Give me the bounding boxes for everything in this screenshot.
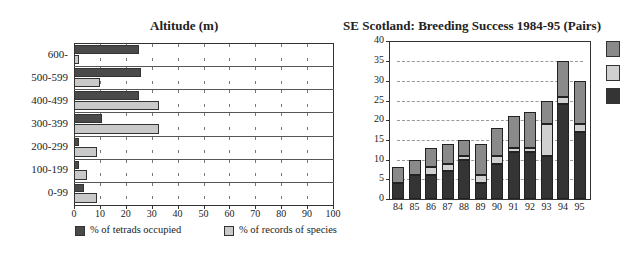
altitude-category-label: 0-99 bbox=[6, 186, 68, 198]
grid-tick bbox=[307, 44, 308, 47]
bar-records-of-species bbox=[74, 101, 159, 111]
grid-tick bbox=[178, 160, 179, 163]
bar-segment-top bbox=[475, 144, 487, 176]
grid-tick bbox=[204, 127, 205, 130]
bar-tetrads-occupied bbox=[74, 184, 84, 193]
altitude-category-label: 100-199 bbox=[6, 163, 68, 175]
grid-tick bbox=[281, 113, 282, 116]
grid-tick bbox=[307, 67, 308, 70]
grid-tick bbox=[229, 150, 230, 153]
bar-segment-middle bbox=[491, 156, 503, 164]
grid-tick bbox=[229, 113, 230, 116]
grid-tick bbox=[307, 90, 308, 93]
grid-tick bbox=[204, 67, 205, 70]
grid-tick bbox=[255, 160, 256, 163]
y-axis-tick-label: 10 bbox=[352, 153, 384, 164]
grid-tick bbox=[255, 196, 256, 199]
grid-tick bbox=[100, 150, 101, 153]
grid-tick bbox=[204, 113, 205, 116]
y-axis-tick bbox=[386, 179, 389, 180]
grid-tick bbox=[281, 44, 282, 47]
bar-segment-top bbox=[541, 101, 553, 125]
grid-tick bbox=[152, 44, 153, 47]
grid-tick bbox=[281, 150, 282, 153]
grid-tick bbox=[178, 127, 179, 130]
grid-tick bbox=[229, 183, 230, 186]
y-axis-tick bbox=[386, 101, 389, 102]
bar-segment-top bbox=[409, 160, 421, 176]
grid-tick bbox=[229, 58, 230, 61]
y-axis-tick-label: 25 bbox=[352, 94, 384, 105]
bar-segment-top bbox=[491, 128, 503, 156]
grid-tick bbox=[204, 183, 205, 186]
bar-segment-top bbox=[508, 116, 520, 148]
grid-tick bbox=[178, 113, 179, 116]
grid-tick bbox=[255, 127, 256, 130]
bar-segment-top bbox=[458, 140, 470, 156]
gridline bbox=[397, 140, 583, 141]
bar-segment-top bbox=[524, 112, 536, 147]
y-axis-tick-label: 20 bbox=[352, 113, 384, 124]
bar-segment-bottom bbox=[557, 104, 569, 199]
bar-segment-middle bbox=[524, 148, 536, 152]
grid-tick bbox=[307, 137, 308, 140]
grid-tick bbox=[204, 137, 205, 140]
x-axis-tick-label: 60 bbox=[219, 208, 239, 219]
y-axis-tick bbox=[386, 199, 389, 200]
bar-segment-bottom bbox=[541, 156, 553, 199]
grid-tick bbox=[281, 90, 282, 93]
y-axis-tick bbox=[386, 41, 389, 42]
grid-tick bbox=[152, 90, 153, 93]
grid-tick bbox=[126, 137, 127, 140]
grid-tick bbox=[178, 104, 179, 107]
y-axis-tick-label: 40 bbox=[352, 34, 384, 45]
grid-tick bbox=[255, 44, 256, 47]
grid-tick bbox=[178, 196, 179, 199]
y-axis-tick-label: 5 bbox=[352, 172, 384, 183]
year-label: 95 bbox=[570, 201, 590, 212]
bar-segment-middle bbox=[541, 124, 553, 156]
bar-segment-top bbox=[557, 61, 569, 96]
altitude-category-label: 200-299 bbox=[6, 140, 68, 152]
grid-tick bbox=[100, 173, 101, 176]
y-axis-tick bbox=[386, 120, 389, 121]
altitude-category-label: 500-599 bbox=[6, 71, 68, 83]
bar-segment-top bbox=[425, 148, 437, 168]
x-axis-tick-label: 100 bbox=[323, 208, 343, 219]
y-axis-tick bbox=[386, 61, 389, 62]
grid-tick bbox=[307, 183, 308, 186]
grid-tick bbox=[255, 58, 256, 61]
grid-tick bbox=[307, 196, 308, 199]
bar-segment-bottom bbox=[574, 132, 586, 199]
grid-tick bbox=[307, 127, 308, 130]
x-axis-tick-label: 40 bbox=[168, 208, 188, 219]
bar-tetrads-occupied bbox=[74, 45, 139, 54]
grid-tick bbox=[255, 173, 256, 176]
grid-tick bbox=[255, 183, 256, 186]
grid-tick bbox=[204, 196, 205, 199]
grid-tick bbox=[204, 150, 205, 153]
grid-tick bbox=[307, 113, 308, 116]
grid-tick bbox=[126, 150, 127, 153]
grid-tick bbox=[178, 150, 179, 153]
grid-tick bbox=[126, 113, 127, 116]
grid-tick bbox=[204, 81, 205, 84]
bar-tetrads-occupied bbox=[74, 138, 79, 147]
bar-segment-bottom bbox=[491, 164, 503, 199]
bar-segment-top bbox=[574, 81, 586, 124]
gridline bbox=[397, 81, 583, 82]
bar-segment-bottom bbox=[475, 183, 487, 199]
grid-tick bbox=[229, 44, 230, 47]
grid-tick bbox=[100, 183, 101, 186]
grid-tick bbox=[152, 113, 153, 116]
grid-tick bbox=[204, 90, 205, 93]
grid-tick bbox=[281, 137, 282, 140]
grid-tick bbox=[229, 81, 230, 84]
x-axis-tick-label: 80 bbox=[271, 208, 291, 219]
bar-tetrads-occupied bbox=[74, 114, 102, 123]
grid-tick bbox=[126, 160, 127, 163]
grid-tick bbox=[307, 81, 308, 84]
altitude-chart-title: Altitude (m) bbox=[150, 18, 218, 34]
grid-tick bbox=[307, 173, 308, 176]
grid-tick bbox=[126, 58, 127, 61]
